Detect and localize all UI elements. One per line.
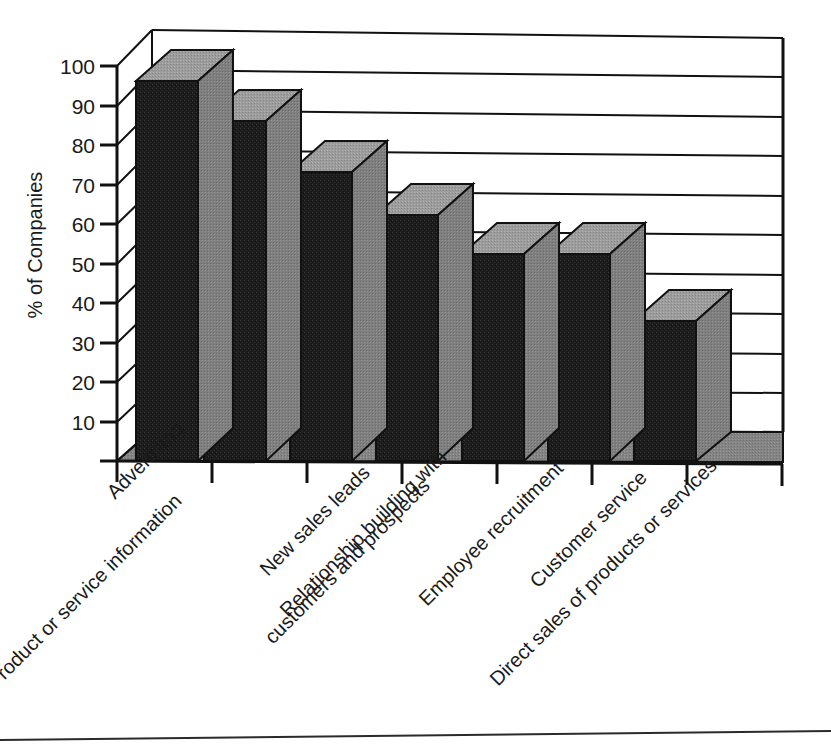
y-tick-label-100: 100 (60, 55, 95, 78)
y-tick-label-90: 90 (72, 95, 95, 118)
bar-6[interactable] (548, 223, 645, 461)
bar-chart-3d: 100 90 80 70 60 50 40 30 20 10 % of Comp… (0, 0, 831, 751)
y-tick-label-60: 60 (72, 213, 95, 236)
y-tick-label-10: 10 (72, 411, 95, 434)
y-tick-label-70: 70 (72, 174, 95, 197)
bar-7[interactable] (634, 290, 731, 461)
bar-4[interactable] (376, 184, 473, 461)
y-tick-label-40: 40 (72, 292, 95, 315)
y-tick-label-20: 20 (72, 371, 95, 394)
y-tick-label-80: 80 (72, 134, 95, 157)
y-axis-title: % of Companies (24, 172, 46, 319)
y-tick-label-50: 50 (72, 253, 95, 276)
figure-container: 100 90 80 70 60 50 40 30 20 10 % of Comp… (0, 0, 831, 751)
y-tick-label-30: 30 (72, 332, 95, 355)
bar-1[interactable] (136, 50, 233, 461)
bar-3[interactable] (290, 141, 387, 461)
bar-5[interactable] (462, 223, 559, 461)
